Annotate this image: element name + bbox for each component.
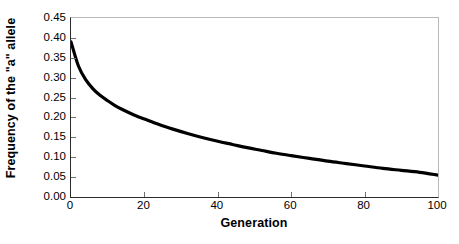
y-axis-tick-label: 0.20 <box>26 110 66 122</box>
series-line-a-allele <box>71 42 438 175</box>
x-axis-tick-labels: 020406080100 <box>70 199 438 215</box>
plot-area <box>70 17 439 198</box>
y-axis-tick-mark <box>71 177 76 178</box>
x-axis-tick-label: 80 <box>341 199 387 211</box>
y-axis-title: Frequency of the "a" allele <box>0 0 22 196</box>
y-axis-tick-mark <box>71 137 76 138</box>
x-axis-tick-label: 20 <box>120 199 166 211</box>
y-axis-tick-mark <box>71 58 76 59</box>
y-axis-tick-label: 0.25 <box>26 91 66 103</box>
y-axis-tick-mark <box>71 117 76 118</box>
x-axis-tick-label: 40 <box>194 199 240 211</box>
y-axis-tick-label: 0.30 <box>26 71 66 83</box>
y-axis-tick-mark <box>71 38 76 39</box>
y-axis-tick-label: 0.15 <box>26 130 66 142</box>
y-axis-tick-label: 0.45 <box>26 11 66 23</box>
y-axis-tick-mark <box>71 78 76 79</box>
chart-figure: Frequency of the "a" allele 0.000.050.10… <box>0 0 459 244</box>
x-axis-tick-mark <box>218 192 219 197</box>
y-axis-tick-labels: 0.000.050.100.150.200.250.300.350.400.45 <box>26 10 66 204</box>
x-axis-tick-label: 60 <box>267 199 313 211</box>
y-axis-tick-label: 0.10 <box>26 150 66 162</box>
x-axis-tick-mark <box>365 192 366 197</box>
y-axis-tick-label: 0.40 <box>26 31 66 43</box>
y-axis-tick-label: 0.35 <box>26 51 66 63</box>
x-axis-tick-mark <box>291 192 292 197</box>
y-axis-tick-label: 0.05 <box>26 170 66 182</box>
x-axis-tick-label: 100 <box>414 199 459 211</box>
x-axis-title: Generation <box>70 216 438 230</box>
x-axis-tick-mark <box>144 192 145 197</box>
x-axis-tick-label: 0 <box>47 199 93 211</box>
data-curve-svg <box>71 18 438 197</box>
y-axis-tick-mark <box>71 98 76 99</box>
y-axis-tick-mark <box>71 157 76 158</box>
